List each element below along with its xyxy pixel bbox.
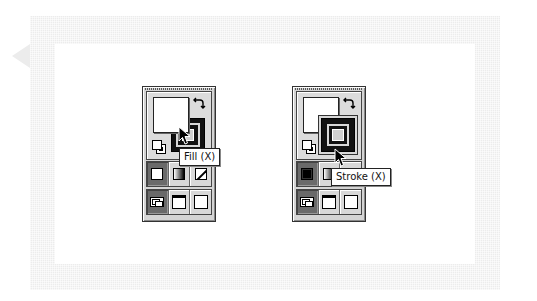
full-screen-menu-mode-button[interactable] <box>169 190 191 214</box>
stroke-swatch-core <box>332 129 344 141</box>
full-screen-icon <box>194 195 208 209</box>
standard-screen-icon <box>150 197 164 207</box>
full-screen-icon <box>344 195 358 209</box>
color-button[interactable] <box>147 162 169 186</box>
fill-stroke-selector <box>296 91 362 160</box>
toolbox-fill-stroke-panel-stroke <box>292 86 366 222</box>
none-icon <box>195 168 207 180</box>
panel-grip[interactable] <box>295 88 363 90</box>
default-fill-stroke-icon[interactable] <box>302 140 316 154</box>
callout-pointer <box>12 44 30 68</box>
full-screen-mode-button[interactable] <box>340 190 361 214</box>
fill-tooltip: Fill (X) <box>179 148 220 166</box>
screen-mode-row <box>296 189 362 215</box>
swap-fill-stroke-icon[interactable] <box>343 96 357 110</box>
gradient-icon <box>173 168 185 180</box>
stroke-swatch-ring <box>327 124 349 146</box>
swap-fill-stroke-icon[interactable] <box>193 96 207 110</box>
full-screen-mode-button[interactable] <box>190 190 211 214</box>
full-screen-menu-icon <box>172 195 186 209</box>
callout-content-area <box>55 44 475 264</box>
color-icon <box>151 168 163 180</box>
standard-screen-mode-button[interactable] <box>147 190 169 214</box>
stroke-tooltip: Stroke (X) <box>331 168 391 186</box>
color-icon <box>301 168 313 180</box>
color-button[interactable] <box>297 162 319 186</box>
standard-screen-icon <box>300 197 314 207</box>
full-screen-menu-icon <box>322 195 336 209</box>
panel-grip[interactable] <box>145 88 213 90</box>
standard-screen-mode-button[interactable] <box>297 190 319 214</box>
default-fill-stroke-icon[interactable] <box>152 140 166 154</box>
full-screen-menu-mode-button[interactable] <box>319 190 341 214</box>
stroke-swatch[interactable] <box>321 118 355 152</box>
screen-mode-row <box>146 189 212 215</box>
